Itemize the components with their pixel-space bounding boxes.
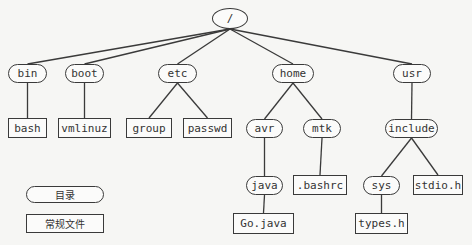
node-label: passwd: [188, 122, 228, 135]
node-label: java: [251, 179, 278, 192]
node-label: home: [280, 67, 307, 80]
edge-root-usr: [230, 29, 412, 64]
edge-java-go_java: [264, 195, 265, 213]
edge-etc-passwd: [178, 83, 208, 118]
directory-node-home: home: [272, 64, 314, 83]
legend-directory-label: 目录: [55, 187, 75, 202]
file-node-go_java: Go.java: [233, 213, 294, 234]
edge-root-etc: [178, 29, 231, 64]
node-label: include: [388, 122, 434, 135]
node-label: sys: [372, 179, 392, 192]
legend-file-label: 常规文件: [45, 216, 85, 231]
edge-root-home: [230, 29, 293, 64]
directory-node-bin: bin: [8, 64, 47, 83]
directory-node-root: /: [212, 8, 248, 29]
directory-node-mtk: mtk: [303, 119, 341, 138]
node-label: mtk: [312, 122, 332, 135]
node-label: boot: [71, 67, 98, 80]
directory-node-usr: usr: [393, 64, 431, 83]
file-node-group: group: [126, 118, 172, 138]
file-node-passwd: passwd: [183, 118, 232, 138]
directory-node-java: java: [246, 176, 283, 195]
edge-include-sys: [382, 138, 412, 176]
node-label: vmlinuz: [61, 122, 107, 135]
node-label: bin: [18, 67, 38, 80]
node-label: Go.java: [240, 217, 286, 230]
directory-node-include: include: [385, 119, 438, 138]
file-node-vmlinuz: vmlinuz: [58, 118, 111, 138]
directory-node-etc: etc: [158, 64, 197, 83]
edge-root-bin: [28, 29, 231, 64]
node-label: bash: [14, 122, 41, 135]
edge-etc-group: [149, 83, 178, 118]
node-label: group: [132, 122, 165, 135]
file-node-bashrc: .bashrc: [293, 175, 347, 195]
legend-file-symbol: 常规文件: [26, 214, 104, 233]
directory-node-boot: boot: [65, 64, 104, 83]
edge-home-mtk: [293, 83, 322, 119]
node-label: .bashrc: [297, 179, 343, 192]
directory-node-avr: avr: [246, 119, 283, 138]
node-label: stdio.h: [415, 179, 461, 192]
edge-home-avr: [265, 83, 294, 119]
file-node-bash: bash: [8, 118, 47, 138]
edge-usr-include: [412, 83, 413, 119]
node-label: /: [227, 12, 234, 25]
file-node-stdio_h: stdio.h: [413, 175, 463, 195]
node-label: etc: [168, 67, 188, 80]
file-node-types_h: types.h: [355, 213, 408, 234]
edge-include-stdio_h: [412, 138, 439, 175]
node-label: avr: [255, 122, 275, 135]
directory-node-sys: sys: [363, 176, 400, 195]
legend-directory-symbol: 目录: [26, 186, 104, 203]
edge-mtk-bashrc: [320, 138, 322, 175]
node-label: types.h: [358, 217, 404, 230]
edge-root-boot: [85, 29, 231, 64]
node-label: usr: [402, 67, 422, 80]
